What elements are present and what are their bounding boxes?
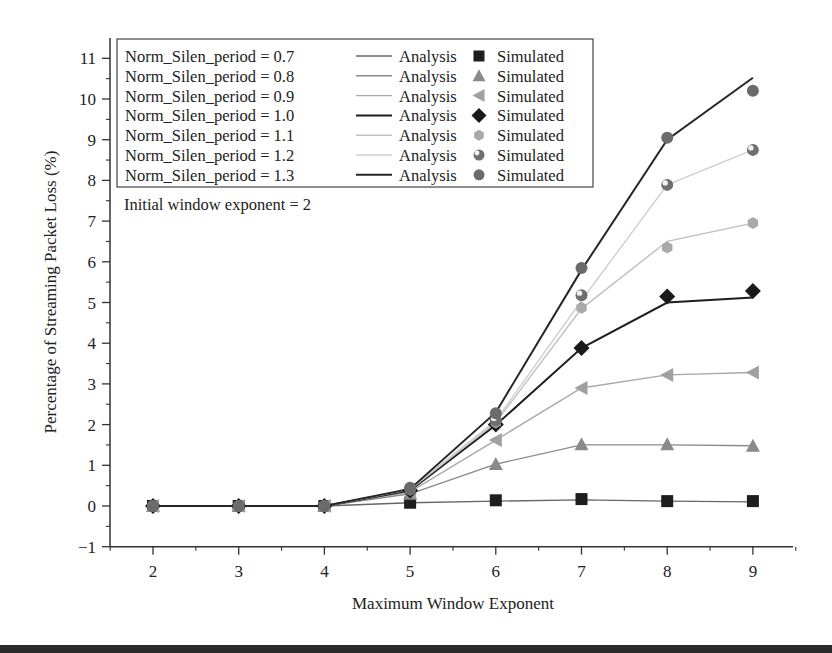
- legend-series-name: Norm_Silen_period = 1.1: [125, 126, 294, 145]
- hexagon-marker-icon: [576, 302, 586, 314]
- x-tick-label: 9: [749, 562, 758, 581]
- y-tick-label: −1: [78, 538, 96, 557]
- sphere-marker-icon: [474, 150, 485, 161]
- legend-analysis-label: Analysis: [399, 166, 457, 185]
- sphere-highlight: [663, 180, 668, 185]
- series-1.0: [153, 298, 753, 506]
- square-marker-icon: [747, 495, 759, 507]
- bottom-bar: [0, 645, 832, 653]
- x-tick-label: 5: [406, 562, 415, 581]
- legend-simulated-label: Simulated: [497, 166, 565, 185]
- y-tick-label: 4: [88, 334, 97, 353]
- legend-series-name: Norm_Silen_period = 1.2: [125, 146, 294, 165]
- legend: Norm_Silen_period = 0.7AnalysisSimulated…: [117, 39, 593, 187]
- y-tick-label: 6: [88, 253, 97, 272]
- triangle-left-marker-icon: [746, 366, 759, 380]
- legend-simulated-label: Simulated: [497, 126, 565, 145]
- sphere-highlight: [475, 151, 480, 156]
- legend-analysis-label: Analysis: [399, 126, 457, 145]
- legend-analysis-label: Analysis: [399, 146, 457, 165]
- triangle-left-marker-icon: [489, 433, 502, 447]
- sphere-highlight: [577, 290, 582, 295]
- legend-simulated-label: Simulated: [497, 146, 565, 165]
- y-tick-label: 8: [88, 171, 97, 190]
- analysis-line: [153, 223, 753, 506]
- triangle-up-marker-icon: [660, 437, 674, 450]
- diamond-marker-icon: [745, 283, 761, 299]
- circle-marker-icon: [576, 262, 588, 274]
- circle-marker-icon: [747, 85, 759, 97]
- y-tick-label: 0: [88, 497, 97, 516]
- circle-marker-icon: [147, 500, 159, 512]
- y-tick-label: 9: [88, 131, 97, 150]
- y-tick-label: 10: [79, 90, 96, 109]
- annotation-initial-window: Initial window exponent = 2: [124, 195, 311, 214]
- triangle-left-marker-icon: [575, 381, 588, 395]
- legend-simulated-label: Simulated: [497, 47, 565, 66]
- circle-marker-icon: [474, 169, 485, 180]
- legend-series-name: Norm_Silen_period = 0.9: [125, 87, 294, 106]
- circle-marker-icon: [490, 407, 502, 419]
- legend-analysis-label: Analysis: [399, 67, 457, 86]
- square-marker-icon: [576, 493, 588, 505]
- legend-series-name: Norm_Silen_period = 1.3: [125, 166, 294, 185]
- y-tick-label: 2: [88, 416, 97, 435]
- legend-analysis-label: Analysis: [399, 47, 457, 66]
- y-tick-label: 7: [88, 212, 97, 231]
- legend-simulated-label: Simulated: [497, 106, 565, 125]
- analysis-line: [153, 373, 753, 507]
- simulated-points-1.1: [148, 217, 758, 512]
- y-tick-label: 3: [88, 375, 97, 394]
- legend-simulated-label: Simulated: [497, 67, 565, 86]
- series-1.1: [153, 223, 753, 506]
- sphere-highlight: [748, 145, 753, 150]
- square-marker-icon: [661, 495, 673, 507]
- legend-analysis-label: Analysis: [399, 106, 457, 125]
- analysis-line: [153, 298, 753, 506]
- x-tick-label: 6: [492, 562, 501, 581]
- sphere-marker-icon: [576, 289, 588, 301]
- y-tick-label: 11: [80, 49, 96, 68]
- y-axis-label: Percentage of Streaming Packet Loss (%): [41, 151, 60, 434]
- x-tick-label: 8: [663, 562, 672, 581]
- x-tick-label: 3: [234, 562, 243, 581]
- hexagon-marker-icon: [748, 217, 758, 229]
- sphere-marker-icon: [747, 144, 759, 156]
- x-tick-label: 7: [577, 562, 586, 581]
- y-tick-label: 5: [88, 294, 97, 313]
- circle-marker-icon: [661, 132, 673, 144]
- legend-analysis-label: Analysis: [399, 87, 457, 106]
- square-marker-icon: [474, 51, 485, 62]
- circle-marker-icon: [318, 500, 330, 512]
- legend-series-name: Norm_Silen_period = 0.8: [125, 67, 294, 86]
- sphere-marker-icon: [661, 179, 673, 191]
- series-0.9: [153, 373, 753, 507]
- chart: −10123456789101123456789 Norm_Silen_peri…: [0, 0, 832, 653]
- triangle-up-marker-icon: [575, 437, 589, 450]
- y-tick-label: 1: [88, 456, 97, 475]
- circle-marker-icon: [404, 482, 416, 494]
- legend-series-name: Norm_Silen_period = 1.0: [125, 106, 294, 125]
- triangle-left-marker-icon: [660, 368, 673, 382]
- legend-simulated-label: Simulated: [497, 87, 565, 106]
- x-tick-label: 2: [149, 562, 158, 581]
- legend-series-name: Norm_Silen_period = 0.7: [125, 47, 294, 66]
- x-axis-label: Maximum Window Exponent: [352, 594, 554, 613]
- square-marker-icon: [490, 494, 502, 506]
- circle-marker-icon: [233, 500, 245, 512]
- x-tick-label: 4: [320, 562, 329, 581]
